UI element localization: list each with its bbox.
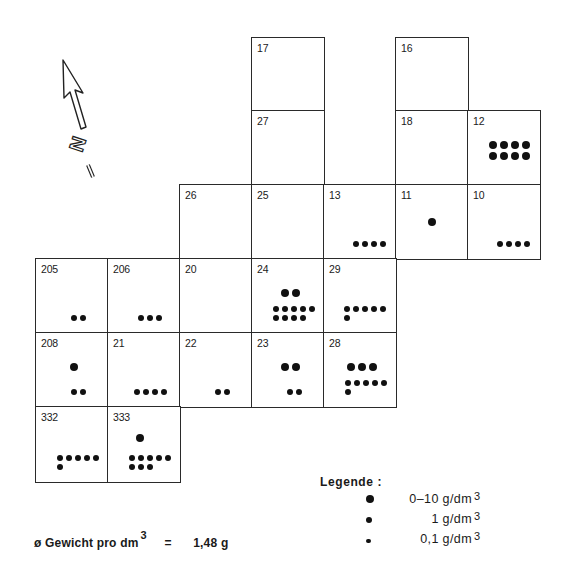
grid-cell: 25 xyxy=(251,184,325,260)
cell-number: 29 xyxy=(329,263,340,275)
dot-icon xyxy=(511,152,519,160)
dot-icon xyxy=(147,315,153,321)
dot-cluster-large xyxy=(136,434,144,442)
dot-icon xyxy=(147,464,153,470)
legend-label: 0–10 g/dm xyxy=(384,492,472,506)
footer-exponent: 3 xyxy=(141,529,147,541)
dot-icon xyxy=(369,363,377,371)
dot-icon xyxy=(380,306,386,312)
cell-number: 13 xyxy=(329,189,340,201)
dot-icon xyxy=(358,363,366,371)
dot-icon xyxy=(273,306,279,312)
cell-number: 25 xyxy=(257,189,268,201)
cell-number: 28 xyxy=(329,337,340,349)
dot-icon xyxy=(281,363,289,371)
grid-cell: 10 xyxy=(467,184,541,260)
dot-icon xyxy=(428,218,436,226)
legend-exponent: 3 xyxy=(474,510,481,522)
cell-number: 16 xyxy=(401,42,412,54)
dot-cluster-medium xyxy=(71,389,86,395)
dot-cluster-medium xyxy=(497,241,530,247)
dot-icon xyxy=(292,363,300,371)
dot-icon xyxy=(515,241,521,247)
cell-number: 17 xyxy=(257,42,268,54)
legend-item: 0,1 g/dm3 xyxy=(366,532,481,546)
legend-exponent: 3 xyxy=(474,530,481,542)
grid-cell: 26 xyxy=(179,184,253,260)
grid-cell: 208 xyxy=(35,332,109,408)
grid-cell: 24 xyxy=(251,258,325,334)
grid-cell: 18 xyxy=(395,110,469,186)
cell-number: 11 xyxy=(401,189,412,201)
dot-icon xyxy=(152,389,158,395)
dot-icon xyxy=(282,306,288,312)
dot-icon xyxy=(522,152,530,160)
grid-cell: 27 xyxy=(251,110,325,186)
dot-icon xyxy=(381,380,387,386)
cell-number: 23 xyxy=(257,337,268,349)
grid-cell: 17 xyxy=(251,37,325,112)
dot-icon xyxy=(524,241,530,247)
dot-icon xyxy=(353,306,359,312)
dot-cluster-large xyxy=(347,363,377,371)
cell-number: 22 xyxy=(185,337,196,349)
dot-icon xyxy=(500,141,508,149)
cell-number: 332 xyxy=(41,411,58,423)
dot-icon xyxy=(497,241,503,247)
dot-icon xyxy=(129,464,135,470)
dot-icon xyxy=(215,389,221,395)
dot-icon xyxy=(57,464,63,470)
legend-dot-icon xyxy=(366,495,374,503)
cell-number: 26 xyxy=(185,189,196,201)
footer-prefix: ø Gewicht pro dm xyxy=(34,536,139,550)
dot-icon xyxy=(147,455,153,461)
dot-cluster-large xyxy=(70,363,78,371)
grid-cell: 11 xyxy=(395,184,469,260)
dot-icon xyxy=(282,315,288,321)
cell-number: 21 xyxy=(113,337,124,349)
dot-icon xyxy=(345,389,351,395)
cell-number: 205 xyxy=(41,263,58,275)
dot-icon xyxy=(75,455,81,461)
dot-icon xyxy=(287,389,293,395)
dot-cluster-medium xyxy=(345,380,387,395)
dot-cluster-medium xyxy=(344,306,386,321)
dot-icon xyxy=(511,141,519,149)
dot-icon xyxy=(291,315,297,321)
dot-icon xyxy=(300,306,306,312)
dot-icon xyxy=(138,455,144,461)
dot-icon xyxy=(372,380,378,386)
dot-icon xyxy=(291,306,297,312)
dot-icon xyxy=(165,455,171,461)
dot-icon xyxy=(506,241,512,247)
dot-icon xyxy=(353,241,359,247)
grid-cell: 333 xyxy=(107,406,181,483)
legend-label: 0,1 g/dm xyxy=(384,532,472,546)
dot-icon xyxy=(156,315,162,321)
dot-icon xyxy=(500,152,508,160)
dot-cluster-medium xyxy=(287,389,302,395)
cell-number: 10 xyxy=(473,189,484,201)
dot-cluster-large xyxy=(281,289,300,297)
dot-icon xyxy=(80,315,86,321)
legend-item: 1 g/dm3 xyxy=(366,512,481,526)
dot-icon xyxy=(80,389,86,395)
dot-icon xyxy=(138,315,144,321)
grid-cell: 13 xyxy=(323,184,397,260)
legend-title: Legende : xyxy=(320,475,382,489)
dot-icon xyxy=(156,455,162,461)
grid-cell: 23 xyxy=(251,332,325,408)
dot-icon xyxy=(489,152,497,160)
dot-icon xyxy=(347,363,355,371)
legend-item: 0–10 g/dm3 xyxy=(366,492,481,506)
grid-cell: 20 xyxy=(179,258,253,334)
dot-icon xyxy=(93,455,99,461)
footer-value: 1,48 g xyxy=(193,536,228,550)
dot-icon xyxy=(296,389,302,395)
dot-icon xyxy=(66,455,72,461)
grid-cell: 206 xyxy=(107,258,181,334)
legend-dot-icon xyxy=(366,517,372,523)
cell-number: 208 xyxy=(41,337,58,349)
dot-icon xyxy=(380,241,386,247)
cell-number: 27 xyxy=(257,115,268,127)
